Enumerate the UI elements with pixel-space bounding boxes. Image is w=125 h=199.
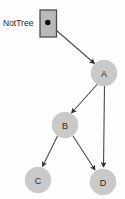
pointer-dot-icon bbox=[45, 20, 50, 25]
node-b-label: B bbox=[62, 121, 68, 131]
graph-svg: NotTree A B C D bbox=[0, 0, 125, 199]
edge-a-b bbox=[72, 84, 98, 113]
diagram-canvas: NotTree A B C D bbox=[0, 0, 125, 199]
node-c-label: C bbox=[35, 176, 42, 186]
edge-a-d bbox=[104, 86, 105, 167]
edge-b-c bbox=[43, 136, 58, 167]
node-a-label: A bbox=[101, 69, 107, 79]
node-d-label: D bbox=[100, 178, 107, 188]
pointer-label: NotTree bbox=[3, 18, 34, 28]
edge-b-d bbox=[73, 136, 95, 170]
